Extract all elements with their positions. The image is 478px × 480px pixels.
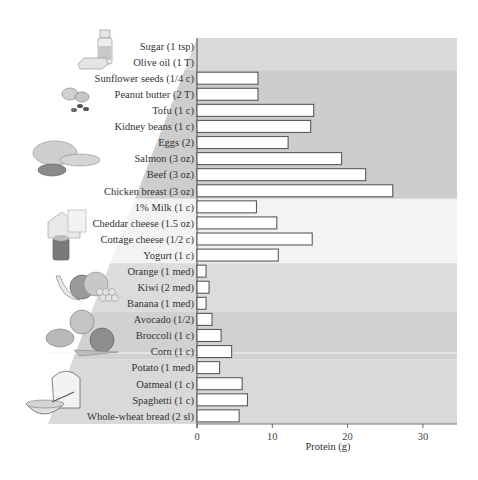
bar [197,378,242,390]
oil-bottle-butter-icon [78,30,112,69]
protein-bar-chart: Sugar (1 tsp)Olive oil (1 T)Sunflower se… [0,0,478,480]
category-label: Avocado (1/2) [134,314,195,326]
category-label: Spaghetti (1 c) [132,395,194,407]
category-label: Corn (1 c) [151,346,195,358]
bar [197,329,221,341]
bar [197,265,206,277]
category-label: Olive oil (1 T) [133,57,194,69]
band-fruits [0,263,457,311]
bar [197,394,247,406]
bar [197,297,206,309]
bar [197,153,342,165]
x-axis-title: Protein (g) [305,441,351,453]
dairy-cheese-milk-icon [48,210,86,260]
bread-cereal-icon [26,371,80,414]
category-label: 1% Milk (1 c) [135,202,195,214]
category-label: Chicken breast (3 oz) [104,186,195,198]
x-tick-label: 10 [267,431,278,442]
bar [197,313,212,325]
bar [197,410,239,422]
bar [197,88,258,100]
x-tick-label: 30 [418,431,429,442]
bar [197,233,312,245]
meat-fish-poultry-icon [33,141,100,176]
bar [197,362,220,374]
category-label: Banana (1 med) [127,298,195,310]
category-label: Cheddar cheese (1.5 oz) [93,218,195,230]
nuts-seeds-icon [62,88,89,112]
bar [197,217,277,229]
bar [197,185,393,197]
bar [197,104,314,116]
bar [197,120,311,132]
category-label: Orange (1 med) [128,266,195,278]
category-label: Cottage cheese (1/2 c) [100,234,194,246]
category-label: Potato (1 med) [132,362,195,374]
category-label: Kidney beans (1 c) [114,121,194,133]
category-label: Eggs (2) [158,137,194,149]
bar [197,249,278,261]
x-axis-ticks: 0102030 [194,424,428,442]
category-label: Whole-wheat bread (2 sl) [87,411,194,423]
category-label: Peanut butter (2 T) [115,89,195,101]
category-label: Tofu (1 c) [152,105,194,117]
category-label: Oatmeal (1 c) [136,379,194,391]
bar [197,169,366,181]
bar [197,201,256,213]
category-label: Kiwi (2 med) [137,282,194,294]
category-label: Yogurt (1 c) [143,250,194,262]
bar [197,281,209,293]
category-label: Broccoli (1 c) [136,330,195,342]
category-label: Beef (3 oz) [147,169,195,181]
x-tick-label: 0 [194,431,199,442]
band-fats-sugars [0,38,457,70]
bar [197,137,288,149]
bar [197,346,232,358]
bar [197,72,258,84]
category-label: Sugar (1 tsp) [140,41,195,53]
category-label: Salmon (3 oz) [135,153,195,165]
category-label: Sunflower seeds (1/4 c) [95,73,195,85]
